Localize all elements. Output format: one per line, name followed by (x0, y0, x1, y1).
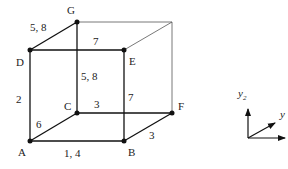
edge-e-h (124, 22, 172, 50)
vertex-d (28, 48, 33, 53)
edge-label-eb: 7 (128, 91, 134, 103)
edge-label-da: 2 (16, 93, 22, 105)
edge-label-de: 7 (93, 35, 99, 47)
axis-y2-label: y2 (237, 87, 247, 102)
vertex-label-b: B (128, 146, 135, 158)
edge-label-ac: 6 (36, 118, 42, 130)
vertex-label-c: C (64, 100, 71, 112)
edge-label-dg: 5, 8 (30, 21, 47, 33)
edge-label-ab: 1, 4 (64, 147, 81, 159)
main-edges (30, 22, 172, 141)
vertex-c (75, 111, 80, 116)
vertex-g (75, 20, 80, 25)
edge-label-bf: 3 (149, 129, 155, 141)
vertex-e (122, 48, 127, 53)
vertex-f (170, 111, 175, 116)
vertex-label-g: G (67, 4, 75, 16)
edge-label-gc: 5, 8 (81, 70, 98, 82)
edge-labels: 5, 8 7 5, 8 2 7 6 3 1, 4 3 (16, 21, 155, 159)
axis-y-arrow-icon (248, 123, 275, 138)
edge-b-f (124, 113, 172, 141)
axis-y-label: y (279, 108, 285, 120)
cube-diagram: G D E C F A B 5, 8 7 5, 8 2 7 6 3 1, 4 3… (0, 0, 288, 169)
vertex-label-d: D (16, 56, 24, 68)
vertex-label-a: A (18, 146, 26, 158)
vertex-a (28, 139, 33, 144)
vertex-label-f: F (178, 100, 184, 112)
edge-label-cf: 3 (94, 98, 100, 110)
vertex-b (122, 139, 127, 144)
vertex-label-e: E (129, 55, 136, 67)
